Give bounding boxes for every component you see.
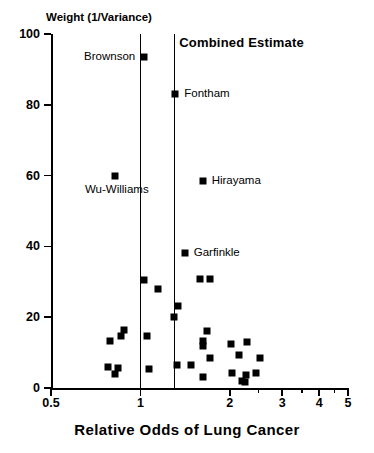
data-point-study-21 [207,354,214,361]
y-tick-label-40: 40 [0,239,40,253]
x-tick-1 [140,388,142,396]
data-point-study-11 [171,314,178,321]
data-point-study-20 [235,352,242,359]
x-minor-tick-4.5 [334,388,336,393]
data-point-study-13 [143,333,150,340]
point-label-brownson: Brownson [84,50,135,62]
x-tick-3 [281,388,283,396]
point-label-fontham: Fontham [184,87,229,99]
x-minor-tick-2.5 [258,388,260,393]
point-label-garfinkle: Garfinkle [194,246,240,258]
data-point-study-08 [197,275,204,282]
data-point-study-29 [187,361,194,368]
data-point-study-15 [107,338,114,345]
y-axis-line [51,34,53,390]
combined-estimate-line [174,34,175,389]
data-point-study-22 [243,339,250,346]
data-point-study-17 [200,343,207,350]
x-tick-label-3: 3 [279,396,286,410]
y-tick-60 [44,175,51,177]
data-point-wu-williams [111,173,118,180]
data-point-study-28 [174,361,181,368]
funnel-plot-figure: Weight (1/Variance) 020406080100 0.51234… [0,0,374,453]
data-point-study-23 [257,354,264,361]
y-tick-100 [44,33,51,35]
y-tick-label-0: 0 [0,381,40,395]
x-tick-label-0.5: 0.5 [42,396,59,410]
y-tick-label-20: 20 [0,310,40,324]
y-tick-label-60: 60 [0,169,40,183]
data-point-study-06 [141,277,148,284]
null-effect-line [140,34,141,389]
point-label-hirayama: Hirayama [212,174,261,186]
data-point-study-09 [207,275,214,282]
x-tick-label-2: 2 [226,396,233,410]
data-point-study-35 [252,369,259,376]
x-tick-label-1: 1 [137,396,144,410]
data-point-study-30 [200,374,207,381]
data-point-study-14 [204,328,211,335]
data-point-study-10 [175,302,182,309]
x-tick-0.5 [50,388,52,396]
y-tick-label-100: 100 [0,27,40,41]
data-point-garfinkle [181,250,188,257]
x-tick-5 [347,388,349,396]
y-axis-title: Weight (1/Variance) [46,11,152,23]
combined-estimate-annotation: Combined Estimate [179,35,304,50]
data-point-study-07 [155,285,162,292]
data-point-study-27 [146,366,153,373]
x-axis-title: Relative Odds of Lung Cancer [0,421,374,438]
x-tick-4 [318,388,320,396]
x-tick-2 [229,388,231,396]
x-axis-line [51,388,349,390]
data-point-study-33 [242,372,249,379]
data-point-study-18 [228,341,235,348]
x-tick-label-4: 4 [316,396,323,410]
data-point-study-24 [105,363,112,370]
data-point-study-19 [117,332,124,339]
data-point-study-31 [228,370,235,377]
data-point-study-34 [242,379,249,386]
data-point-study-26 [111,370,118,377]
y-tick-20 [44,316,51,318]
y-tick-40 [44,246,51,248]
x-minor-tick-3.5 [301,388,303,393]
data-point-hirayama [199,178,206,185]
y-tick-label-80: 80 [0,98,40,112]
y-tick-80 [44,104,51,106]
x-tick-label-5: 5 [345,396,352,410]
data-point-brownson [141,54,148,61]
data-point-fontham [172,91,179,98]
point-label-wu-williams: Wu-Williams [85,183,149,195]
